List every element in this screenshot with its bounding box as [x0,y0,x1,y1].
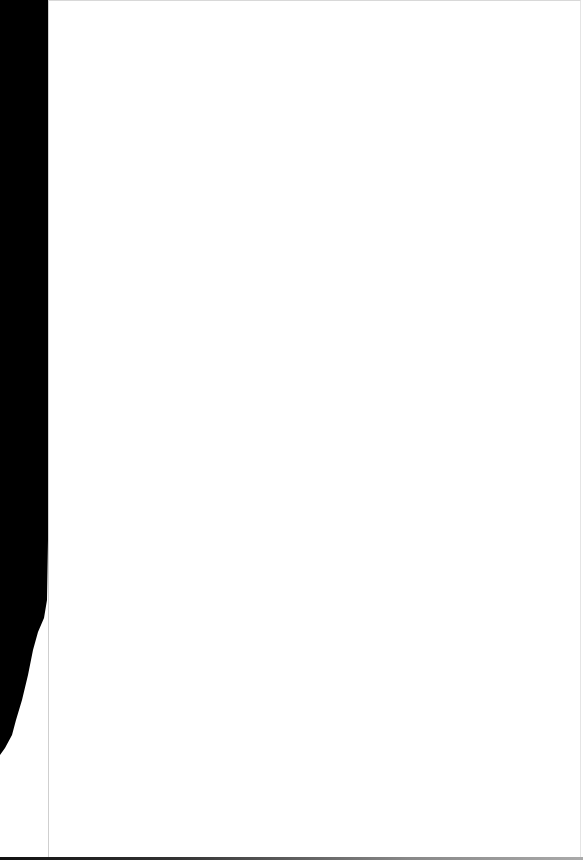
scanned-page [0,0,583,860]
blank-page [48,0,581,858]
